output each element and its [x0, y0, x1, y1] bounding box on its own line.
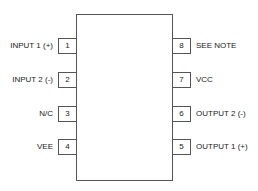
pin-3-box: 3: [58, 106, 76, 122]
pin-7-box: 7: [173, 72, 191, 88]
pin-2-box: 2: [58, 72, 76, 88]
pin-8-box: 8: [173, 38, 191, 54]
pin-2-label: INPUT 2 (-): [12, 72, 53, 88]
pin-6-label: OUTPUT 2 (-): [196, 106, 246, 122]
pin-7-label: VCC: [196, 72, 213, 88]
pin-8-label: SEE NOTE: [196, 38, 236, 54]
pin-5-label: OUTPUT 1 (+): [196, 139, 248, 155]
pin-4-box: 4: [58, 139, 76, 155]
ic-body: [76, 14, 173, 181]
pin-1-box: 1: [58, 38, 76, 54]
pin-1-label: INPUT 1 (+): [10, 38, 53, 54]
pin-3-label: N/C: [39, 106, 53, 122]
pin-5-box: 5: [173, 139, 191, 155]
pin-6-box: 6: [173, 106, 191, 122]
pin-4-label: VEE: [37, 139, 53, 155]
